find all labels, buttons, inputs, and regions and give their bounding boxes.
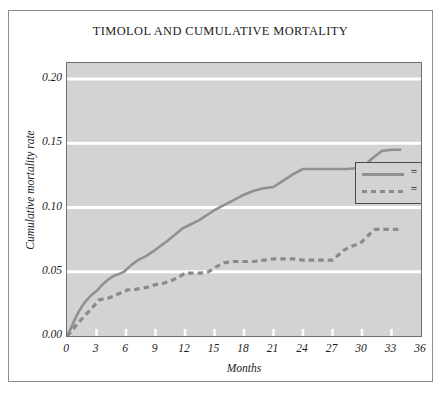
x-tick-label: 30 — [348, 342, 374, 354]
x-axis-tick-marks — [97, 329, 392, 336]
x-tick-label: 21 — [260, 342, 286, 354]
figure-container: TIMOLOL AND CUMULATIVE MORTALITY 0.000.0… — [0, 0, 442, 401]
x-tick-label: 6 — [112, 342, 138, 354]
x-tick-label: 12 — [171, 342, 197, 354]
x-tick-label: 33 — [378, 342, 404, 354]
x-tick-label: 27 — [319, 342, 345, 354]
plot-area: = Placebo = Timolol — [66, 62, 422, 337]
legend-item-placebo: = Placebo — [362, 166, 422, 182]
x-tick-label: 15 — [201, 342, 227, 354]
legend-swatch-placebo — [362, 173, 404, 176]
x-tick-label: 24 — [289, 342, 315, 354]
legend-label-placebo: = Placebo — [410, 166, 422, 178]
x-tick-label: 3 — [83, 342, 109, 354]
y-tick-label: 0.20 — [6, 71, 62, 83]
series-line-placebo — [67, 150, 401, 336]
x-axis-title: Months — [66, 362, 422, 374]
y-axis-title: Cumulative mortality rate — [24, 100, 36, 280]
legend-item-timolol: = Timolol — [362, 183, 422, 199]
data-series-group — [67, 150, 401, 336]
page-title: TIMOLOL AND CUMULATIVE MORTALITY — [8, 24, 433, 39]
chart-legend: = Placebo = Timolol — [355, 162, 422, 204]
x-tick-label: 9 — [142, 342, 168, 354]
y-tick-label: 0.00 — [6, 328, 62, 340]
x-tick-label: 0 — [53, 342, 79, 354]
legend-label-timolol: = Timolol — [410, 183, 422, 195]
x-tick-label: 18 — [230, 342, 256, 354]
legend-swatch-timolol — [362, 190, 404, 193]
x-tick-label: 36 — [407, 342, 433, 354]
series-line-timolol — [67, 229, 401, 336]
